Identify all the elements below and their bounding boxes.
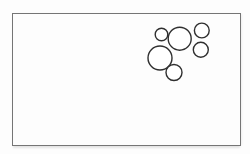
circle-small-top-left — [155, 28, 168, 41]
scanned-drawing-canvas — [0, 0, 250, 154]
circle-small-top-right — [194, 23, 209, 38]
circle-cluster-drawing — [0, 0, 250, 154]
circle-large-top-center — [168, 27, 191, 50]
circle-small-right-mid — [193, 42, 208, 57]
circle-small-bottom — [166, 65, 182, 81]
